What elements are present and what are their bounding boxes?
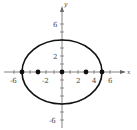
- x-tick-label: 2: [76, 77, 80, 85]
- x-tick-label: 6: [108, 77, 113, 85]
- x-tick-label: -6: [10, 77, 17, 85]
- ellipse-graph: -6 -2 2 4 6 6 2 -6 y x: [0, 0, 137, 130]
- x-axis-arrow-icon: [120, 70, 126, 74]
- focus-point-right: [84, 70, 89, 75]
- center-point: [60, 70, 65, 75]
- y-axis-label: y: [63, 0, 68, 8]
- y-tick-label: 6: [53, 21, 58, 29]
- x-axis-label: x: [127, 68, 131, 75]
- y-tick-label: -6: [49, 117, 56, 125]
- focus-point-left: [36, 70, 41, 75]
- vertex-point-left: [20, 70, 25, 75]
- x-tick-label: -2: [42, 77, 49, 85]
- y-tick-label: 2: [53, 53, 57, 61]
- vertex-point-right: [100, 70, 105, 75]
- x-tick-label: 4: [92, 77, 97, 85]
